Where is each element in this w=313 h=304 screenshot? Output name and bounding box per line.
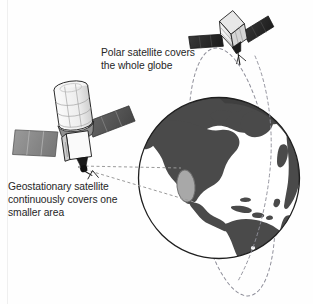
geo-satellite-dish xyxy=(87,170,99,179)
geostationary-satellite xyxy=(4,73,143,189)
diagram-canvas: Polar satellite covers the whole globe G… xyxy=(0,0,313,304)
geo-satellite-instrument-box xyxy=(61,131,91,161)
earth-globe xyxy=(139,96,302,289)
geo-satellite-panel-left xyxy=(9,124,61,162)
polar-satellite xyxy=(183,0,281,78)
geostationary-satellite-caption: Geostationary satellite continuously cov… xyxy=(8,180,117,220)
polar-satellite-caption: Polar satellite covers the whole globe xyxy=(101,46,195,72)
geo-satellite-drum xyxy=(53,79,93,132)
